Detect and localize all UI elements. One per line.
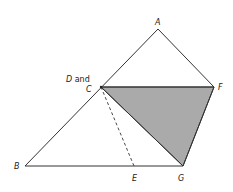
label-c: C [86, 85, 92, 94]
label-a: A [154, 18, 160, 27]
label-e: E [132, 174, 138, 183]
geometry-diagram: A D and C F B E G [0, 0, 233, 192]
point-c-dot [100, 86, 102, 88]
segment-af [158, 29, 214, 87]
label-and: and [72, 75, 90, 84]
shaded-triangle-cfg [101, 87, 214, 166]
label-b: B [14, 162, 20, 171]
label-g: G [178, 174, 184, 183]
label-f: F [218, 83, 223, 92]
label-d-and: D and [66, 75, 90, 84]
